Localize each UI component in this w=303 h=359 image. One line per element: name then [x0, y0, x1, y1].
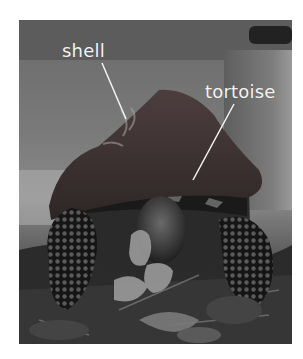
tortoise-photo [19, 20, 292, 344]
photo-scene [19, 20, 292, 344]
shell-label: shell [62, 42, 105, 60]
tortoise-label: tortoise [205, 83, 276, 101]
